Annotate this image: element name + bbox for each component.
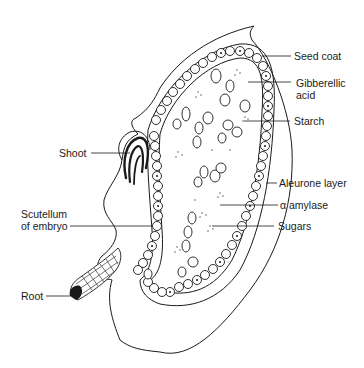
label-sugars: Sugars [278,220,311,232]
label-alpha-amylase: α amylase [280,199,328,211]
shoot [125,138,148,184]
label-shoot: Shoot [59,147,86,159]
label-starch: Starch [294,115,324,127]
label-scutellum-line1: Scutellum [21,208,67,220]
root [70,248,121,300]
label-scutellum-line2: of embryo [21,220,68,232]
label-aleurone-layer: Aleurone layer [279,177,347,189]
label-gibberellic-acid-line1: Gibberellic [296,77,346,89]
label-seed-coat: Seed coat [294,50,341,62]
label-gibberellic-acid-line2: acid [296,89,315,101]
label-root: Root [21,290,43,302]
